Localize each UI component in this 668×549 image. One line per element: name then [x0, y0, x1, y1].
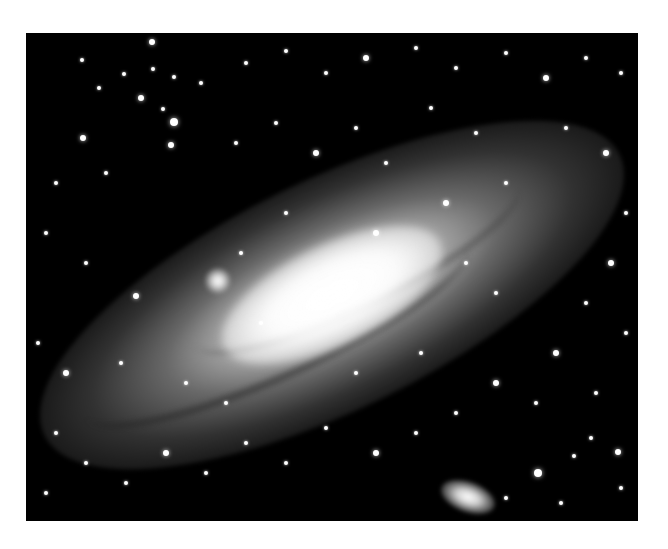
- star: [543, 75, 549, 81]
- star: [373, 230, 379, 236]
- astrophotograph-frame: [26, 33, 638, 521]
- star: [429, 106, 433, 110]
- star: [97, 86, 101, 90]
- star: [414, 431, 418, 435]
- star: [584, 301, 588, 305]
- star: [559, 501, 563, 505]
- star: [284, 461, 288, 465]
- star: [464, 261, 468, 265]
- star: [504, 51, 508, 55]
- star: [54, 181, 58, 185]
- star: [615, 449, 621, 455]
- star: [534, 401, 538, 405]
- star: [44, 491, 48, 495]
- star: [553, 350, 559, 356]
- upper-companion: [205, 268, 231, 294]
- star: [224, 401, 228, 405]
- star: [274, 121, 278, 125]
- star: [234, 141, 238, 145]
- star: [239, 251, 243, 255]
- star: [324, 71, 328, 75]
- star: [133, 293, 139, 299]
- star: [168, 142, 174, 148]
- star: [493, 380, 499, 386]
- star: [419, 351, 423, 355]
- star: [36, 341, 40, 345]
- star: [534, 469, 542, 477]
- star: [504, 181, 508, 185]
- star: [259, 321, 263, 325]
- star: [170, 118, 178, 126]
- star: [443, 200, 449, 206]
- star: [589, 436, 593, 440]
- star: [199, 81, 203, 85]
- star: [414, 46, 418, 50]
- star: [494, 291, 498, 295]
- star: [122, 72, 126, 76]
- star: [151, 67, 155, 71]
- star: [284, 211, 288, 215]
- star: [619, 71, 623, 75]
- star: [149, 39, 155, 45]
- star: [454, 411, 458, 415]
- star: [44, 231, 48, 235]
- star: [608, 260, 614, 266]
- star: [84, 261, 88, 265]
- star: [572, 454, 576, 458]
- star: [624, 211, 628, 215]
- star: [354, 371, 358, 375]
- star: [161, 107, 165, 111]
- star: [584, 56, 588, 60]
- star: [594, 391, 598, 395]
- lower-companion: [437, 473, 500, 520]
- star: [138, 95, 144, 101]
- star: [284, 49, 288, 53]
- star: [80, 135, 86, 141]
- star: [324, 426, 328, 430]
- star: [54, 431, 58, 435]
- star: [363, 55, 369, 61]
- star: [619, 486, 623, 490]
- star: [384, 161, 388, 165]
- star: [124, 481, 128, 485]
- star: [313, 150, 319, 156]
- star: [244, 61, 248, 65]
- star: [244, 441, 248, 445]
- star: [104, 171, 108, 175]
- star: [80, 58, 84, 62]
- star: [474, 131, 478, 135]
- star: [504, 496, 508, 500]
- star: [184, 381, 188, 385]
- star: [204, 471, 208, 475]
- star: [624, 331, 628, 335]
- star: [354, 126, 358, 130]
- star: [373, 450, 379, 456]
- star: [119, 361, 123, 365]
- star: [163, 450, 169, 456]
- star: [603, 150, 609, 156]
- star: [564, 126, 568, 130]
- star: [172, 75, 176, 79]
- star: [84, 461, 88, 465]
- star: [63, 370, 69, 376]
- star: [454, 66, 458, 70]
